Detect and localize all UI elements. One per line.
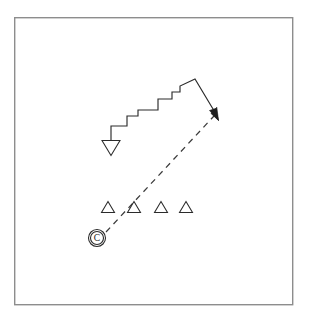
diagram-svg: C [0,0,311,325]
outer-frame [15,18,293,305]
diagram-canvas: C [0,0,311,325]
circled-c-letter: C [94,233,100,243]
